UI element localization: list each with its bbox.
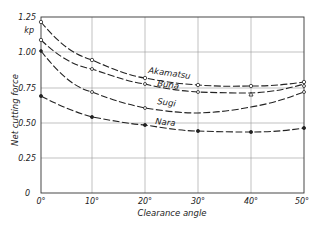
x-tick: 30° [191, 197, 205, 206]
y-tick: 0 [25, 189, 30, 198]
series-label-sugi: Sugi [157, 96, 177, 109]
x-axis-label: Clearance angle [137, 208, 206, 218]
y-unit: kp [24, 26, 34, 35]
y-axis-label: Net cutting force [10, 74, 20, 146]
x-tick: 0° [36, 197, 45, 206]
series-label-buna: Buna [157, 78, 180, 91]
y-axis-ticks: 0 0.25 0.50 0.75 1.00 1.25 [18, 13, 36, 198]
chart: 0 0.25 0.50 0.75 1.00 1.25 kp Net cuttin… [0, 0, 317, 226]
x-tick: 20° [138, 197, 152, 206]
series-label-akamatsu: Akamatsu [147, 65, 192, 81]
x-axis-ticks: 0° 10° 20° 30° 40° 50° [36, 197, 309, 206]
series-label-nara: Nara [155, 116, 176, 128]
x-tick: 40° [244, 197, 258, 206]
y-tick: 0.50 [18, 119, 36, 128]
y-tick: 1.25 [18, 13, 36, 22]
x-tick: 10° [85, 197, 99, 206]
y-tick: 0.75 [18, 84, 36, 93]
x-tick: 50° [295, 197, 309, 206]
y-tick: 0.25 [18, 154, 36, 163]
y-tick: 1.00 [18, 48, 36, 57]
